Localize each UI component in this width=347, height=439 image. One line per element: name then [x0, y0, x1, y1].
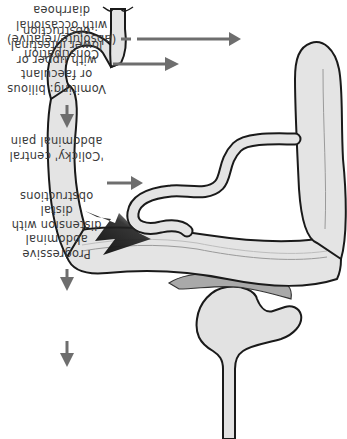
ascending-colon: [295, 42, 346, 259]
rotated-figure: Vomiting: bilious or faeculant with uppe…: [0, 0, 347, 439]
stomach-body: [197, 287, 302, 439]
gi-obstruction-diagram: Vomiting: bilious or faeculant with uppe…: [0, 0, 347, 439]
label-constipation: Constipation (absolute/relative) with oc…: [0, 3, 123, 61]
label-colicky-pain: 'Colicky' central abdominal pain: [0, 134, 113, 163]
label-distension: Progressive abdominal distension with di…: [0, 189, 113, 262]
